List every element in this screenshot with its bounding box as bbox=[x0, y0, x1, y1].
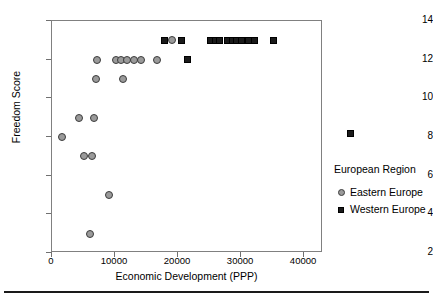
data-point-eastern-europe bbox=[153, 56, 161, 64]
legend-swatch-shape bbox=[338, 207, 344, 213]
data-point-eastern-europe bbox=[75, 114, 83, 122]
y-axis-tick-label: 8 bbox=[407, 131, 433, 141]
data-point-western-europe bbox=[178, 37, 185, 44]
bottom-divider bbox=[4, 291, 429, 293]
legend-entry: Eastern Europe bbox=[334, 184, 433, 201]
data-point-western-europe bbox=[216, 37, 223, 44]
data-point-western-europe bbox=[184, 56, 191, 63]
y-axis-tick-label: 2 bbox=[407, 247, 433, 257]
x-axis-tick-label: 20000 bbox=[147, 256, 207, 266]
legend-entry-label: Western Europe bbox=[350, 203, 426, 216]
x-axis-tick-mark bbox=[114, 252, 115, 257]
x-axis-title: Economic Development (PPP) bbox=[51, 270, 322, 282]
data-point-eastern-europe bbox=[137, 56, 145, 64]
x-axis-tick-mark bbox=[303, 252, 304, 257]
data-point-western-europe bbox=[347, 130, 354, 137]
y-axis-tick-label: 14 bbox=[407, 15, 433, 25]
x-axis-tick-mark bbox=[51, 252, 52, 257]
data-point-eastern-europe bbox=[93, 56, 101, 64]
data-point-eastern-europe bbox=[88, 152, 96, 160]
data-point-eastern-europe bbox=[119, 75, 127, 83]
y-axis-tick-label: 10 bbox=[407, 92, 433, 102]
x-axis-tick-label: 10000 bbox=[84, 256, 144, 266]
plot-area bbox=[51, 20, 322, 252]
data-point-western-europe bbox=[161, 37, 168, 44]
y-axis-title-label: Freedom Score bbox=[9, 47, 23, 167]
data-point-eastern-europe bbox=[58, 133, 66, 141]
scatter-chart-figure: Freedom Score 2468101214 010000200003000… bbox=[0, 0, 433, 303]
x-axis-tick-label: 30000 bbox=[210, 256, 270, 266]
data-point-western-europe bbox=[270, 37, 277, 44]
x-axis-tick-mark bbox=[177, 252, 178, 257]
legend-entry: Western Europe bbox=[334, 201, 433, 218]
x-axis-tick-label: 40000 bbox=[273, 256, 333, 266]
data-point-eastern-europe bbox=[80, 152, 88, 160]
data-point-eastern-europe bbox=[105, 191, 113, 199]
y-axis-tick-label: 12 bbox=[407, 54, 433, 64]
x-axis-tick-mark bbox=[240, 252, 241, 257]
legend-title: European Region bbox=[334, 163, 433, 176]
legend-square-icon bbox=[334, 207, 348, 213]
y-axis-title: Freedom Score bbox=[9, 47, 23, 167]
data-point-eastern-europe bbox=[90, 114, 98, 122]
legend: European Region Eastern EuropeWestern Eu… bbox=[334, 163, 433, 218]
data-point-western-europe bbox=[238, 37, 245, 44]
data-point-eastern-europe bbox=[168, 36, 176, 44]
x-axis-tick-label: 0 bbox=[21, 256, 81, 266]
legend-circle-icon bbox=[334, 189, 348, 196]
legend-entries: Eastern EuropeWestern Europe bbox=[334, 184, 433, 218]
legend-entry-label: Eastern Europe bbox=[350, 186, 423, 199]
data-point-eastern-europe bbox=[92, 75, 100, 83]
legend-swatch-shape bbox=[338, 189, 345, 196]
data-point-eastern-europe bbox=[86, 230, 94, 238]
data-point-western-europe bbox=[251, 37, 258, 44]
